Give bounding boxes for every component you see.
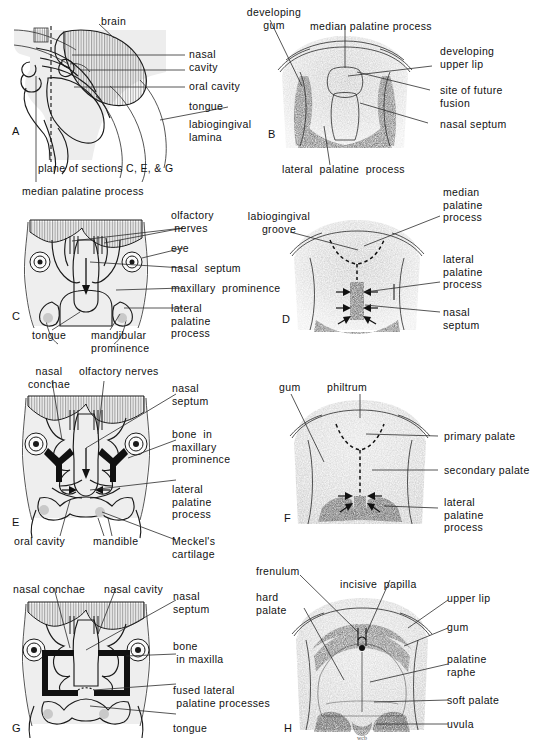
label-h-upper-lip: upper lip [447, 592, 490, 605]
label-h-frenulum: frenulum [256, 565, 300, 578]
label-b-lateral-palatine-process: lateral palatine process [282, 163, 405, 176]
label-a-oral-cavity: oral cavity [189, 80, 240, 93]
svg-text:wcb: wcb [357, 735, 367, 741]
eye-left [30, 252, 50, 272]
label-g-fused-lateral-palatine-processes: fused lateral palatine processes [173, 684, 270, 709]
label-d-median-palatine-process: median palatine process [443, 186, 483, 224]
label-e-nasal-conchae: nasal conchae [18, 365, 80, 390]
panel-b-illustration [270, 20, 432, 165]
palate-development-figure: wcb A B C D E F G H brain nasal cavity o… [0, 0, 550, 748]
label-c-nasal-septum: nasal septum [171, 262, 241, 275]
eye-right [122, 252, 142, 272]
label-h-gum: gum [447, 621, 468, 634]
label-b-nasal-septum: nasal septum [440, 118, 507, 131]
label-f-secondary-palate: secondary palate [444, 464, 530, 477]
eye-left-g [23, 639, 45, 661]
panel-id-e: E [12, 516, 20, 528]
label-g-nasal-septum: nasal septum [173, 590, 210, 615]
label-g-bone-in-maxilla: bone in maxilla [173, 640, 224, 665]
label-b-site-of-future-fusion: site of future fusion [440, 84, 503, 109]
label-a-plane-of-sections: plane of sections C, E, & G [38, 162, 174, 175]
label-e-bone-in-maxillary-prominence: bone in maxillary prominence [172, 428, 230, 466]
label-g-nasal-cavity: nasal cavity [104, 583, 163, 596]
label-a-tongue: tongue [189, 100, 223, 113]
label-f-lateral-palatine-process: lateral palatine process [444, 496, 484, 534]
label-a-brain: brain [101, 15, 126, 28]
label-d-lateral-palatine-process: lateral palatine process [443, 253, 483, 291]
label-d-nasal-septum: nasal septum [443, 306, 480, 331]
label-h-palatine-raphe: palatine raphe [447, 653, 487, 678]
label-b-median-palatine-process: median palatine process [310, 20, 432, 33]
panel-id-h: H [284, 722, 292, 734]
panel-id-d: D [282, 313, 290, 325]
label-e-lateral-palatine-process: lateral palatine process [172, 483, 212, 521]
label-f-philtrum: philtrum [327, 381, 367, 394]
panel-c-illustration [24, 220, 183, 344]
eye-left-e [25, 433, 47, 455]
panel-h-illustration: wcb [292, 575, 448, 741]
label-d-labiogingival-groove: labiogingival groove [233, 210, 325, 235]
eye-right-g [127, 639, 149, 661]
label-c-eye: eye [171, 242, 189, 255]
label-f-gum: gum [279, 381, 300, 394]
label-a-nasal-cavity: nasal cavity [189, 48, 218, 73]
label-h-uvula: uvula [447, 718, 474, 731]
label-g-tongue: tongue [173, 722, 207, 735]
panel-id-a: A [12, 125, 20, 137]
label-a-labiogingival-lamina: labiogingival lamina [189, 118, 251, 143]
label-g-nasal-conchae: nasal conchae [13, 583, 85, 596]
label-c-maxillary-prominence: maxillary prominence [171, 282, 280, 295]
panel-id-b: B [268, 128, 276, 140]
label-b-developing-gum: developing gum [237, 6, 311, 31]
label-b-developing-upper-lip: developing upper lip [440, 45, 494, 70]
label-h-soft-palate: soft palate [447, 694, 499, 707]
label-e-meckels-cartilage: Meckel's cartilage [172, 535, 215, 560]
label-c-median-palatine-process: median palatine process [22, 185, 144, 198]
label-e-oral-cavity: oral cavity [14, 535, 65, 548]
panel-id-c: C [12, 310, 20, 322]
panel-id-f: F [284, 512, 291, 524]
label-c-tongue: tongue [32, 329, 66, 342]
panel-f-illustration [290, 394, 438, 524]
panel-g-illustration [22, 588, 176, 738]
label-c-mandibular-prominence: mandibular prominence [91, 329, 149, 354]
label-e-nasal-septum: nasal septum [172, 382, 209, 407]
label-e-olfactory-nerves: olfactory nerves [79, 365, 159, 378]
label-e-mandible: mandible [93, 535, 138, 548]
label-h-hard-palate: hard palate [256, 591, 287, 616]
label-h-incisive-papilla: incisive papilla [340, 578, 417, 591]
panel-e-illustration [22, 381, 176, 540]
label-c-lateral-palatine-process: lateral palatine process [171, 302, 211, 340]
label-c-olfactory-nerves: olfactory nerves [171, 209, 214, 234]
panel-id-g: G [12, 722, 21, 734]
label-f-primary-palate: primary palate [444, 430, 515, 443]
